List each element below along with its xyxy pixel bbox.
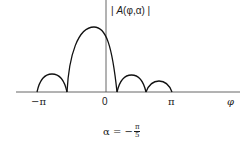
tick-zero: 0: [102, 97, 108, 107]
x-axis-label: φ: [227, 97, 234, 107]
main-lobe-curve: [67, 27, 117, 92]
right-sidelobe-2-curve: [146, 81, 172, 92]
tick-neg-pi: −π: [31, 97, 46, 107]
tick-pi: π: [168, 97, 175, 107]
alpha-caption: α = − π 5: [103, 124, 140, 139]
caption-fraction: π 5: [134, 124, 141, 139]
caption-lhs: α = −: [103, 127, 133, 137]
fraction-denominator: 5: [135, 132, 139, 139]
right-sidelobe-1-curve: [117, 75, 146, 92]
left-sidelobe-curve: [37, 74, 67, 92]
y-axis-label: | A(φ,α) |: [111, 6, 150, 16]
ylabel-args: (φ,α) |: [123, 5, 150, 16]
